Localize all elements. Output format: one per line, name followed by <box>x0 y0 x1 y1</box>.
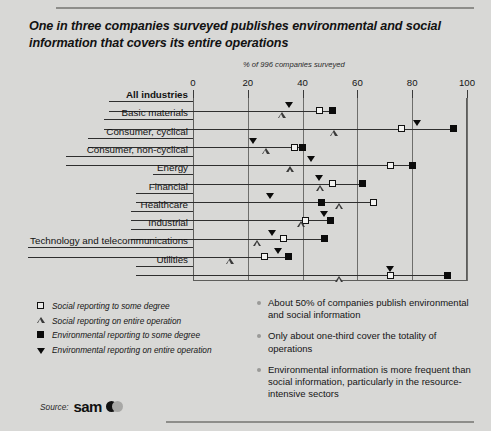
chart-row: Industrial <box>0 217 491 235</box>
category-label-consumer-cyclical: Consumer, cyclical <box>0 126 193 138</box>
x-tick-label-20: 20 <box>242 77 253 88</box>
category-underline <box>131 211 193 212</box>
insight-text: About 50% of companies publish environme… <box>268 297 469 320</box>
triangle-filled-icon <box>37 346 45 352</box>
slide-root: One in three companies surveyed publishe… <box>0 0 491 431</box>
legend-label: Social reporting to some degree <box>52 301 170 311</box>
category-underline <box>136 266 193 267</box>
chart-row: Technology and telecommunications <box>0 235 491 253</box>
category-label-financial: Financial <box>0 181 193 193</box>
chart-row: Financial <box>0 181 491 199</box>
chart-row: Consumer, non-cyclical <box>0 144 491 162</box>
chart-row: Utilities <box>0 254 491 272</box>
insight-item: Only about one-third cover the totality … <box>256 330 471 354</box>
chart-canvas: % of 996 companies surveyed 020406080100… <box>0 0 491 300</box>
legend-label: Social reporting on entire operation <box>52 316 181 326</box>
bullet-dot-icon <box>257 368 261 372</box>
chart-legend: Social reporting to some degreeSocial re… <box>35 299 250 357</box>
category-underline <box>88 138 193 139</box>
category-underline <box>104 119 193 120</box>
category-underline <box>109 101 193 102</box>
category-underline <box>66 156 193 157</box>
legend-item-square-open[interactable]: Social reporting to some degree <box>35 299 250 314</box>
category-label-utilities: Utilities <box>0 254 193 266</box>
category-underline <box>136 193 193 194</box>
insight-text: Environmental information is more freque… <box>268 364 471 399</box>
category-label-consumer-non-cyclical: Consumer, non-cyclical <box>0 144 193 156</box>
insight-item: About 50% of companies publish environme… <box>256 297 471 321</box>
chart-row: Healthcare <box>0 199 491 217</box>
insight-list: About 50% of companies publish environme… <box>256 297 471 409</box>
legend-label: Environmental reporting to some degree <box>52 330 200 340</box>
insight-item: Environmental information is more freque… <box>256 364 471 401</box>
sam-logo-text: sam <box>74 399 102 414</box>
category-label-healthcare: Healthcare <box>0 199 193 211</box>
category-label-all-industries: All industries <box>0 89 193 101</box>
row-connector-line <box>136 275 447 276</box>
x-tick-label-60: 60 <box>352 77 363 88</box>
datapoint-square-open-utilities[interactable] <box>387 272 394 279</box>
triangle-open-icon <box>37 317 45 323</box>
insight-text: Only about one-third cover the totality … <box>268 330 436 353</box>
square-filled-icon <box>37 331 44 338</box>
square-open-icon <box>37 302 44 309</box>
chart-row: Consumer, cyclical <box>0 126 491 144</box>
datapoint-triangle-open-utilities[interactable] <box>335 276 343 282</box>
category-label-industrial: Industrial <box>0 217 193 229</box>
legend-item-triangle-open[interactable]: Social reporting on entire operation <box>35 314 250 329</box>
legend-item-triangle-filled[interactable]: Environmental reporting on entire operat… <box>35 343 250 358</box>
category-underline <box>131 229 193 230</box>
category-underline <box>153 174 193 175</box>
source-label: Source: <box>40 402 69 412</box>
chart-row: Energy <box>0 162 491 180</box>
datapoint-triangle-filled-utilities[interactable] <box>386 266 394 272</box>
axis-subtitle: % of 996 companies surveyed <box>243 60 345 69</box>
chart-row: All industries <box>0 89 491 107</box>
x-tick-label-40: 40 <box>297 77 308 88</box>
bullet-dot-icon <box>257 334 261 338</box>
bottom-divider <box>166 421 474 423</box>
category-underline <box>28 247 193 248</box>
source-line: Source: sam <box>40 399 125 414</box>
sam-circles-logo-icon <box>106 400 125 413</box>
datapoint-square-filled-utilities[interactable] <box>444 272 451 279</box>
legend-label: Environmental reporting on entire operat… <box>52 345 212 355</box>
x-tick-label-0: 0 <box>190 77 195 88</box>
category-label-technology-and-telecommunications: Technology and telecommunications <box>0 235 193 247</box>
category-label-energy: Energy <box>0 162 193 174</box>
x-tick-label-100: 100 <box>459 77 475 88</box>
x-tick-label-80: 80 <box>407 77 418 88</box>
legend-item-square-filled[interactable]: Environmental reporting to some degree <box>35 328 250 343</box>
category-label-basic-materials: Basic materials <box>0 107 193 119</box>
bullet-dot-icon <box>257 301 261 305</box>
